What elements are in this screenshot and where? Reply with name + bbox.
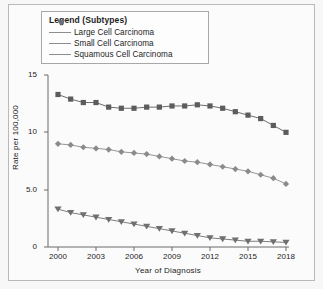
data-point: [131, 150, 137, 156]
y-tick-15: 15: [11, 70, 37, 79]
data-point: [68, 96, 73, 101]
x-tick-2015: 2015: [228, 252, 268, 261]
data-point: [195, 102, 200, 107]
data-point: [93, 145, 99, 151]
data-point: [119, 106, 124, 111]
data-point: [271, 123, 276, 128]
triangle-down-icon: [49, 27, 71, 38]
data-point: [93, 100, 98, 105]
data-point: [156, 153, 162, 159]
x-axis-title: Year of Diagnosis: [63, 266, 273, 275]
data-point: [220, 164, 226, 170]
data-point: [207, 161, 213, 167]
data-point: [81, 100, 86, 105]
square-icon: [49, 49, 71, 60]
screenshot-frame: 15 10 5.0 0 2000 2003 2006 2009 2012 201…: [0, 0, 323, 289]
series-squamous-cell-carcinoma: [55, 92, 288, 135]
legend-label-squamous-cell: Squamous Cell Carcinoma: [71, 49, 173, 60]
data-point: [106, 146, 112, 152]
legend-item-large-cell-carcinoma: Large Cell Carcinoma: [49, 27, 202, 38]
data-point: [245, 168, 251, 174]
legend-item-squamous-cell-carcinoma: Squamous Cell Carcinoma: [49, 49, 202, 60]
data-point: [283, 130, 288, 135]
data-point: [283, 181, 289, 187]
data-point: [131, 106, 136, 111]
data-point: [169, 103, 174, 108]
y-axis-title: Rate per 100,000: [11, 88, 20, 188]
data-point: [233, 109, 238, 114]
data-point: [232, 166, 238, 172]
data-point: [270, 175, 276, 181]
data-point: [157, 105, 162, 110]
data-point: [258, 116, 263, 121]
data-point: [68, 142, 74, 148]
data-point: [207, 103, 212, 108]
legend-title: Legend (Subtypes): [49, 15, 202, 26]
data-point: [55, 141, 61, 147]
data-point: [169, 156, 175, 162]
data-point: [258, 172, 264, 178]
data-point: [80, 144, 86, 150]
diamond-icon: [49, 38, 71, 49]
data-point: [55, 92, 60, 97]
x-tick-2009: 2009: [152, 252, 192, 261]
y-tick-0: 0: [11, 242, 37, 251]
data-point: [220, 106, 225, 111]
x-tick-2006: 2006: [114, 252, 154, 261]
data-point: [144, 151, 150, 157]
data-point: [194, 159, 200, 165]
legend-label-large-cell: Large Cell Carcinoma: [71, 27, 154, 38]
data-point: [144, 105, 149, 110]
legend: Legend (Subtypes) Large Cell Carcinoma S…: [41, 11, 209, 64]
data-series-layer: [54, 92, 289, 246]
legend-label-small-cell: Small Cell Carcinoma: [71, 38, 154, 49]
x-tick-2000: 2000: [38, 252, 78, 261]
data-point: [182, 158, 188, 164]
data-point: [182, 103, 187, 108]
x-tick-2012: 2012: [190, 252, 230, 261]
x-tick-2003: 2003: [76, 252, 116, 261]
series-large-cell-carcinoma: [54, 207, 289, 246]
data-point: [118, 149, 124, 155]
series-small-cell-carcinoma: [55, 141, 289, 187]
data-point: [106, 105, 111, 110]
legend-item-small-cell-carcinoma: Small Cell Carcinoma: [49, 38, 202, 49]
data-point: [245, 113, 250, 118]
x-tick-2018: 2018: [266, 252, 306, 261]
